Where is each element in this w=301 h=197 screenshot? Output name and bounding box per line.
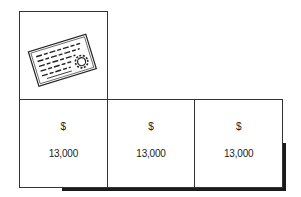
dollar-symbol: $ xyxy=(61,121,67,132)
dollar-symbol: $ xyxy=(236,121,242,132)
value-cell: $ 13,000 xyxy=(108,99,196,188)
certificate-icon xyxy=(24,30,102,88)
value-row: $ 13,000 $ 13,000 $ 13,000 xyxy=(19,99,283,188)
dollar-symbol: $ xyxy=(148,121,154,132)
amount: 13,000 xyxy=(49,148,78,159)
value-cell: $ 13,000 xyxy=(195,99,283,188)
value-cell: $ 13,000 xyxy=(19,99,108,188)
amount: 13,000 xyxy=(224,148,253,159)
amount: 13,000 xyxy=(136,148,165,159)
